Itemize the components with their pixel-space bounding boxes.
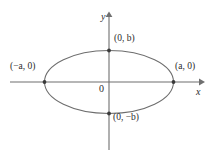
vertex-dot-left bbox=[43, 80, 47, 84]
x-axis-label: x bbox=[196, 87, 200, 97]
x-axis-arrow-icon bbox=[199, 79, 205, 86]
diagram-canvas bbox=[0, 0, 211, 159]
label-right-vertex: (a, 0) bbox=[175, 62, 195, 72]
vertex-dot-top bbox=[107, 49, 111, 53]
y-axis-arrow-icon bbox=[106, 12, 113, 18]
origin-label: 0 bbox=[99, 84, 104, 94]
vertex-dot-right bbox=[172, 80, 176, 84]
label-top-vertex: (0, b) bbox=[114, 34, 135, 44]
vertex-dot-bottom bbox=[107, 112, 111, 116]
label-bottom-vertex: (0, −b) bbox=[113, 113, 139, 123]
label-left-vertex: (−a, 0) bbox=[10, 62, 35, 72]
ellipse-diagram: (0, b) (0, −b) (a, 0) (−a, 0) y x 0 bbox=[0, 0, 211, 159]
y-axis-label: y bbox=[101, 12, 105, 22]
